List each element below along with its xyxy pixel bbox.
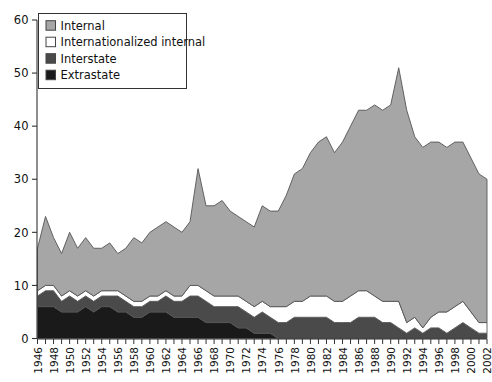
y-tick-label: 0 bbox=[21, 332, 28, 346]
x-tick-label: 1970 bbox=[224, 347, 236, 374]
x-tick-label: 1994 bbox=[417, 347, 429, 374]
x-tick-label: 1956 bbox=[112, 347, 124, 374]
y-axis: 0102030405060 bbox=[14, 13, 37, 346]
x-tick-label: 1984 bbox=[337, 347, 349, 374]
x-tick-label: 1992 bbox=[401, 347, 413, 374]
x-tick-label: 1982 bbox=[321, 347, 333, 374]
x-tick-label: 1996 bbox=[433, 347, 445, 374]
x-tick-label: 1978 bbox=[289, 347, 301, 374]
x-tick-label: 1974 bbox=[256, 347, 268, 374]
x-tick-label: 1950 bbox=[64, 347, 76, 374]
y-tick-label: 40 bbox=[14, 119, 29, 133]
y-tick-label: 50 bbox=[14, 66, 29, 80]
x-axis: 1946194819501952195419561958196019621964… bbox=[32, 339, 492, 374]
x-tick-label: 2000 bbox=[465, 347, 477, 374]
extrastate-swatch bbox=[46, 70, 56, 80]
x-tick-label: 2002 bbox=[481, 347, 492, 374]
internationalized-internal-swatch bbox=[46, 37, 56, 47]
x-tick-label: 1968 bbox=[208, 347, 220, 374]
x-tick-label: 1960 bbox=[144, 347, 156, 374]
area-series-internal bbox=[38, 68, 488, 328]
stacked-area-chart: 0102030405060194619481950195219541956195… bbox=[0, 0, 492, 382]
y-tick-label: 60 bbox=[14, 13, 29, 27]
x-tick-label: 1976 bbox=[273, 347, 285, 374]
legend-item-label: Internal bbox=[61, 19, 105, 33]
legend-item-label: Internationalized internal bbox=[61, 35, 206, 49]
x-tick-label: 1998 bbox=[449, 347, 461, 374]
legend-item-label: Extrastate bbox=[61, 68, 121, 82]
x-tick-label: 1972 bbox=[240, 347, 252, 374]
legend: InternalInternationalized internalInters… bbox=[39, 14, 206, 89]
x-tick-label: 1954 bbox=[96, 347, 108, 374]
chart-canvas: 0102030405060194619481950195219541956195… bbox=[0, 0, 492, 382]
x-tick-label: 1966 bbox=[192, 347, 204, 374]
y-tick-label: 30 bbox=[14, 172, 29, 186]
x-tick-label: 1958 bbox=[128, 347, 140, 374]
y-tick-label: 20 bbox=[14, 226, 29, 240]
interstate-swatch bbox=[46, 54, 56, 64]
x-tick-label: 1948 bbox=[48, 347, 60, 374]
legend-item-label: Interstate bbox=[61, 52, 117, 66]
x-tick-label: 1988 bbox=[369, 347, 381, 374]
internal-swatch bbox=[46, 21, 56, 31]
x-tick-label: 1962 bbox=[160, 347, 172, 374]
x-tick-label: 1980 bbox=[305, 347, 317, 374]
x-tick-label: 1964 bbox=[176, 347, 188, 374]
x-tick-label: 1946 bbox=[32, 347, 44, 374]
x-tick-label: 1952 bbox=[80, 347, 92, 374]
series-areas bbox=[38, 68, 488, 339]
x-tick-label: 1990 bbox=[385, 347, 397, 374]
x-tick-label: 1986 bbox=[353, 347, 365, 374]
y-tick-label: 10 bbox=[14, 279, 29, 293]
